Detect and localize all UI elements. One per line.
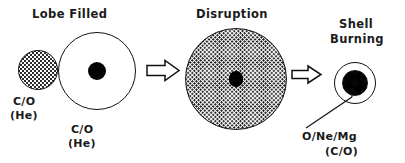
donor-star-circle [18, 50, 58, 90]
stage-heading-disruption: Disruption [196, 8, 268, 20]
transition-arrow-1 [147, 61, 179, 81]
merged-core-region [229, 71, 243, 87]
accretor-label-envelope: (He) [68, 138, 96, 150]
figure-canvas: Lobe Filled C/O (He) C/O (He) Disruption… [0, 0, 405, 163]
stage-heading-shell-line2: Burning [330, 33, 384, 45]
stage-heading-shell-line1: Shell [339, 18, 373, 30]
accretor-core-circle [88, 62, 106, 80]
transition-arrow-2 [292, 66, 321, 83]
stage-heading-lobe-filled: Lobe Filled [32, 8, 107, 20]
remnant-label-composition: O/Ne/Mg [302, 131, 357, 143]
donor-label-composition: C/O [13, 96, 35, 108]
donor-label-envelope: (He) [10, 110, 38, 122]
remnant-core-circle [342, 70, 368, 96]
accretor-label-composition: C/O [71, 124, 93, 136]
remnant-label-envelope: (C/O) [325, 146, 358, 158]
